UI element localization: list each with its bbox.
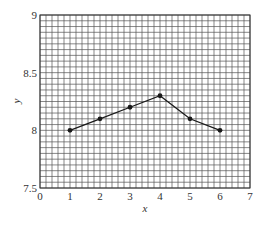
data-point	[68, 128, 73, 133]
x-tick-label: 0	[37, 190, 43, 202]
line-chart: 01234567 7.588.59 x y	[0, 0, 265, 225]
x-tick-label: 4	[157, 190, 163, 202]
data-point	[188, 116, 193, 121]
x-tick-label: 7	[247, 190, 253, 202]
x-tick-label: 6	[217, 190, 223, 202]
x-tick-label: 2	[97, 190, 103, 202]
x-tick-label: 1	[67, 190, 73, 202]
data-point	[218, 128, 223, 133]
y-tick-label: 9	[32, 9, 38, 21]
x-axis-tick-labels: 01234567	[37, 190, 253, 202]
y-axis-tick-labels: 7.588.59	[23, 9, 37, 194]
y-tick-label: 7.5	[23, 182, 37, 194]
x-axis-label: x	[142, 202, 148, 214]
x-tick-label: 3	[127, 190, 133, 202]
data-point	[158, 93, 163, 98]
data-point	[98, 116, 103, 121]
y-tick-label: 8	[32, 124, 38, 136]
x-tick-label: 5	[187, 190, 193, 202]
y-tick-label: 8.5	[23, 67, 37, 79]
data-point	[128, 105, 133, 110]
y-axis-label: y	[10, 98, 22, 104]
